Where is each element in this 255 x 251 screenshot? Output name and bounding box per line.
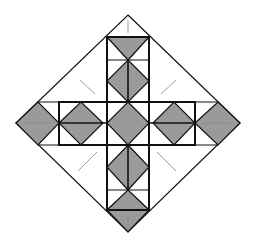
quilt-diagram — [0, 0, 255, 251]
